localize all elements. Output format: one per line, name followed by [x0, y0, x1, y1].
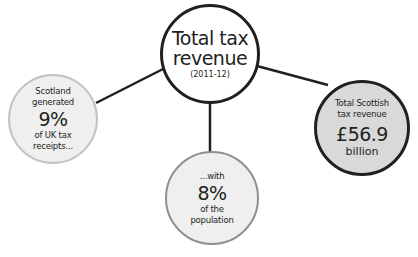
- total-tax-revenue-node: Total tax revenue (2011-12): [160, 4, 260, 104]
- left-line4: receipts...: [33, 141, 73, 152]
- bottom-line1: ...with: [200, 171, 225, 182]
- left-line1: Scotland: [35, 86, 70, 97]
- scottish-tax-revenue-node: Total Scottish tax revenue £56.9 billion: [314, 80, 410, 176]
- right-line2: tax revenue: [338, 109, 387, 120]
- center-title-line1: Total tax: [172, 28, 248, 48]
- connector-left: [96, 68, 165, 103]
- uk-tax-share-node: Scotland generated 9% of UK tax receipts…: [8, 74, 98, 164]
- population-share-node: ...with 8% of the population: [165, 151, 259, 245]
- right-line1: Total Scottish: [335, 98, 389, 109]
- left-value: 9%: [38, 108, 67, 130]
- left-line2: generated: [32, 97, 74, 108]
- bottom-line2: of the: [200, 204, 224, 215]
- right-value: £56.9: [336, 123, 388, 145]
- connector-right: [257, 66, 328, 85]
- left-line3: of UK tax: [34, 130, 71, 141]
- bottom-line3: population: [190, 215, 233, 226]
- right-unit: billion: [346, 145, 379, 158]
- bottom-value: 8%: [197, 182, 226, 204]
- center-title-line2: revenue: [173, 48, 247, 68]
- center-subtitle: (2011-12): [190, 69, 230, 81]
